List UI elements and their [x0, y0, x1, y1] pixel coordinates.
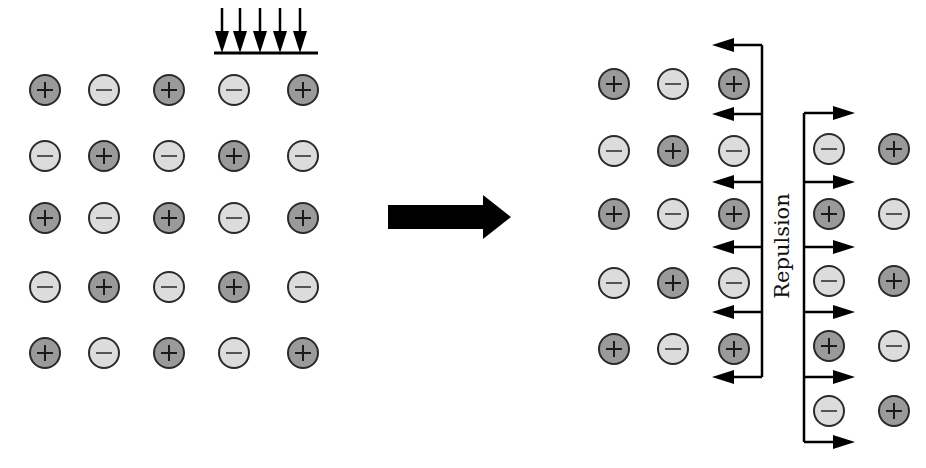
positive-ion — [718, 333, 750, 365]
plus-icon — [880, 397, 908, 425]
negative-ion — [287, 140, 319, 172]
negative-ion — [218, 202, 250, 234]
minus-icon — [220, 76, 248, 104]
negative-ion — [88, 202, 120, 234]
plus-icon — [720, 70, 748, 98]
minus-icon — [600, 137, 628, 165]
plus-icon — [600, 200, 628, 228]
plus-icon — [289, 76, 317, 104]
negative-ion — [657, 68, 689, 100]
negative-ion — [878, 330, 910, 362]
right-arrow-icon — [483, 195, 511, 239]
down-arrow-icon — [253, 31, 267, 53]
negative-ion — [598, 267, 630, 299]
plus-icon — [220, 273, 248, 301]
positive-ion — [287, 74, 319, 106]
positive-ion — [218, 271, 250, 303]
minus-icon — [155, 273, 183, 301]
positive-ion — [29, 202, 61, 234]
repulsion-label: Repulsion — [770, 193, 794, 299]
positive-ion — [88, 140, 120, 172]
positive-ion — [657, 267, 689, 299]
negative-ion — [218, 74, 250, 106]
plus-icon — [31, 76, 59, 104]
plus-icon — [155, 204, 183, 232]
minus-icon — [815, 397, 843, 425]
positive-ion — [598, 68, 630, 100]
positive-ion — [287, 337, 319, 369]
positive-ion — [153, 202, 185, 234]
down-arrow-icon — [293, 31, 307, 53]
positive-ion — [88, 271, 120, 303]
negative-ion — [813, 265, 845, 297]
plus-icon — [720, 200, 748, 228]
plus-icon — [90, 142, 118, 170]
down-arrow-icon — [233, 31, 247, 53]
right-arrow-icon — [833, 305, 855, 319]
negative-ion — [813, 395, 845, 427]
plus-icon — [31, 204, 59, 232]
plus-icon — [155, 76, 183, 104]
minus-icon — [815, 267, 843, 295]
down-arrow-icon — [273, 31, 287, 53]
positive-ion — [878, 395, 910, 427]
plus-icon — [289, 204, 317, 232]
down-arrow-icon — [215, 31, 229, 53]
plus-icon — [600, 335, 628, 363]
positive-ion — [813, 330, 845, 362]
negative-ion — [657, 333, 689, 365]
negative-ion — [878, 198, 910, 230]
plus-icon — [289, 339, 317, 367]
plus-icon — [880, 135, 908, 163]
plus-icon — [720, 335, 748, 363]
right-arrow-icon — [833, 175, 855, 189]
positive-ion — [878, 265, 910, 297]
left-arrow-icon — [712, 107, 734, 121]
minus-icon — [880, 332, 908, 360]
minus-icon — [600, 269, 628, 297]
negative-ion — [218, 337, 250, 369]
positive-ion — [718, 68, 750, 100]
minus-icon — [90, 339, 118, 367]
plus-icon — [815, 332, 843, 360]
minus-icon — [220, 204, 248, 232]
minus-icon — [90, 204, 118, 232]
plus-icon — [659, 137, 687, 165]
transition-arrow-shaft — [388, 205, 487, 229]
positive-ion — [29, 74, 61, 106]
positive-ion — [657, 135, 689, 167]
minus-icon — [31, 142, 59, 170]
positive-ion — [29, 337, 61, 369]
negative-ion — [287, 271, 319, 303]
left-arrow-icon — [712, 370, 734, 384]
minus-icon — [220, 339, 248, 367]
right-arrow-icon — [833, 435, 855, 449]
applied-stress-arrows — [214, 8, 318, 53]
positive-ion — [718, 198, 750, 230]
minus-icon — [155, 142, 183, 170]
negative-ion — [813, 133, 845, 165]
plus-icon — [90, 273, 118, 301]
negative-ion — [718, 267, 750, 299]
plus-icon — [155, 339, 183, 367]
minus-icon — [289, 142, 317, 170]
positive-ion — [153, 337, 185, 369]
negative-ion — [153, 271, 185, 303]
minus-icon — [31, 273, 59, 301]
positive-ion — [287, 202, 319, 234]
right-arrow-icon — [833, 240, 855, 254]
minus-icon — [720, 137, 748, 165]
negative-ion — [598, 135, 630, 167]
positive-ion — [153, 74, 185, 106]
positive-ion — [598, 333, 630, 365]
positive-ion — [218, 140, 250, 172]
right-arrow-icon — [833, 106, 855, 120]
left-arrow-icon — [712, 38, 734, 52]
minus-icon — [720, 269, 748, 297]
minus-icon — [659, 200, 687, 228]
plus-icon — [880, 267, 908, 295]
plus-icon — [31, 339, 59, 367]
minus-icon — [90, 76, 118, 104]
negative-ion — [29, 140, 61, 172]
left-arrow-icon — [712, 240, 734, 254]
